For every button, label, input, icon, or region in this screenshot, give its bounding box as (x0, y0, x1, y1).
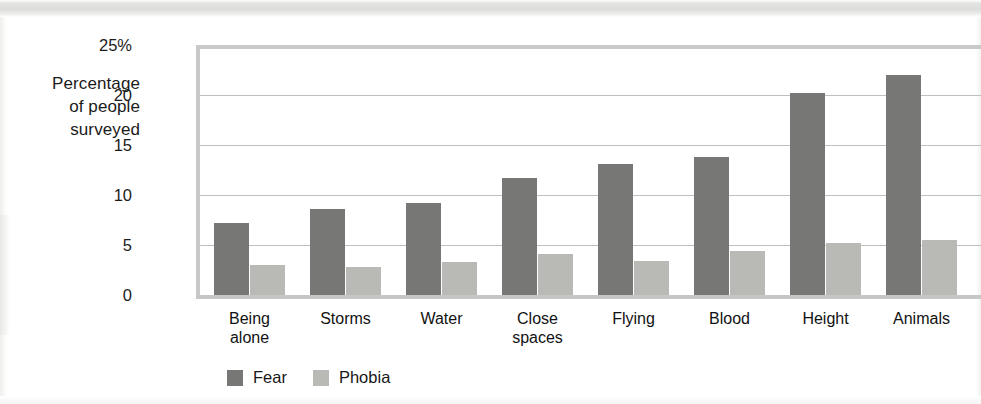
bar-phobia-height[interactable] (826, 243, 861, 295)
scan-artifact-bottom (0, 396, 981, 404)
x-label-animals: Animals (862, 309, 981, 328)
y-tick-label-5: 5 (72, 237, 132, 253)
bar-fear-water[interactable] (406, 203, 441, 295)
chart-page: Percentage of people surveyed 0510152025… (0, 0, 981, 404)
bar-phobia-water[interactable] (442, 262, 477, 295)
bar-series-layer (196, 45, 981, 299)
y-tick-label-25: 25% (72, 37, 132, 53)
legend-item-fear[interactable]: Fear (227, 368, 287, 387)
scan-artifact-top (0, 0, 981, 17)
bar-phobia-storms[interactable] (346, 267, 381, 295)
x-label-line: Animals (862, 309, 981, 328)
bar-phobia-being-alone[interactable] (250, 265, 285, 295)
bar-phobia-close-spaces[interactable] (538, 254, 573, 295)
y-axis-title: Percentage of people surveyed (8, 72, 140, 141)
y-tick-label-15: 15 (72, 137, 132, 153)
y-tick-label-0: 0 (72, 287, 132, 303)
bar-fear-animals[interactable] (886, 75, 921, 295)
legend-swatch-phobia-icon (313, 370, 329, 386)
bar-fear-flying[interactable] (598, 164, 633, 295)
bar-phobia-blood[interactable] (730, 251, 765, 295)
legend-swatch-fear-icon (227, 370, 243, 386)
y-tick-label-10: 10 (72, 187, 132, 203)
bar-fear-height[interactable] (790, 93, 825, 295)
bar-fear-blood[interactable] (694, 157, 729, 295)
y-tick-label-20: 20 (72, 87, 132, 103)
legend-label-phobia: Phobia (339, 368, 390, 387)
legend-item-phobia[interactable]: Phobia (313, 368, 390, 387)
bar-fear-close-spaces[interactable] (502, 178, 537, 295)
bar-fear-being-alone[interactable] (214, 223, 249, 295)
bar-fear-storms[interactable] (310, 209, 345, 295)
bar-phobia-flying[interactable] (634, 261, 669, 295)
x-label-line: alone (190, 328, 310, 347)
bar-phobia-animals[interactable] (922, 240, 957, 295)
scan-artifact-left (0, 17, 7, 404)
legend-label-fear: Fear (253, 368, 287, 387)
x-label-line: spaces (478, 328, 598, 347)
scan-artifact-blot (0, 215, 10, 335)
chart-legend: Fear Phobia (227, 368, 390, 387)
